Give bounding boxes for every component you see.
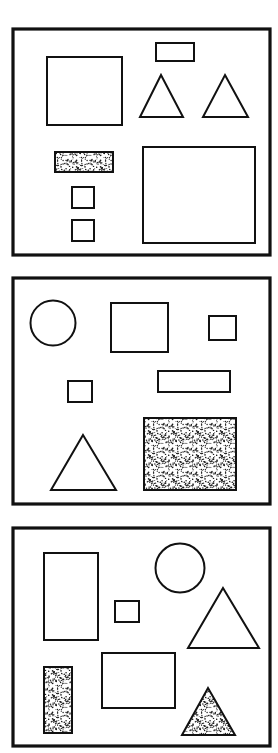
panel-1-small-square-lower (72, 220, 94, 241)
panel-1-frame (13, 29, 270, 255)
panel-3-tall-rectangle-left (44, 553, 98, 640)
panel-2-small-square-middle-left (68, 381, 92, 402)
panel-3-small-square-middle (115, 601, 139, 622)
panel-2-small-square-top-right (209, 316, 236, 340)
figure-root (0, 0, 278, 753)
panel-2-circle-left (31, 301, 76, 346)
panel-1-large-square-right (143, 147, 255, 243)
panel-3-stippled-triangle (182, 688, 235, 735)
panel-2-square-top-middle (111, 303, 168, 352)
panel-3 (13, 528, 270, 746)
panel-1-small-square-upper (72, 187, 94, 208)
panel-2 (13, 278, 270, 504)
shapes-figure (0, 0, 278, 753)
panel-1-stippled-rectangle (55, 152, 113, 172)
panel-1-small-rectangle-top (156, 43, 194, 61)
panel-3-triangle-right (188, 588, 259, 648)
panel-3-stippled-tall-rectangle (44, 667, 72, 733)
panel-2-stippled-square-bottom (144, 418, 236, 490)
panel-1-triangle-right (203, 75, 248, 117)
panel-3-square-bottom-middle (102, 653, 175, 708)
panel-1-triangle-middle (140, 75, 183, 117)
panel-1-large-square-left (47, 57, 122, 125)
panel-3-circle-top-right (156, 544, 205, 593)
panel-2-triangle-bottom-left (51, 435, 116, 490)
panel-1 (13, 29, 270, 255)
panel-2-wide-rectangle-middle (158, 371, 230, 392)
